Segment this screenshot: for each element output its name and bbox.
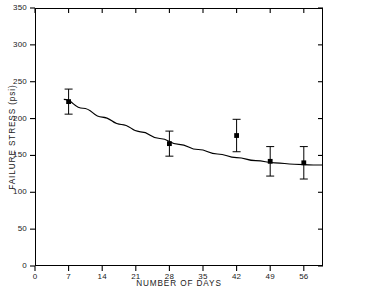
data-point-group	[165, 131, 173, 156]
fitted-curve-line	[64, 99, 323, 165]
data-point-marker	[66, 99, 71, 104]
axis-ticks	[30, 8, 323, 271]
data-point-marker	[234, 133, 239, 138]
data-point-group	[300, 147, 308, 179]
chart-figure: 050100150200250300350 0714212835424956 F…	[0, 0, 369, 294]
data-points-layer	[65, 89, 308, 179]
data-point-marker	[268, 159, 273, 164]
chart-canvas	[0, 0, 369, 294]
data-point-group	[266, 147, 274, 176]
data-point-marker	[301, 160, 306, 165]
data-point-marker	[167, 141, 172, 146]
data-point-group	[233, 119, 241, 151]
x-axis-title: NUMBER OF DAYS	[35, 279, 323, 288]
y-axis-title: FAILURE STRESS (psi)	[8, 8, 17, 266]
